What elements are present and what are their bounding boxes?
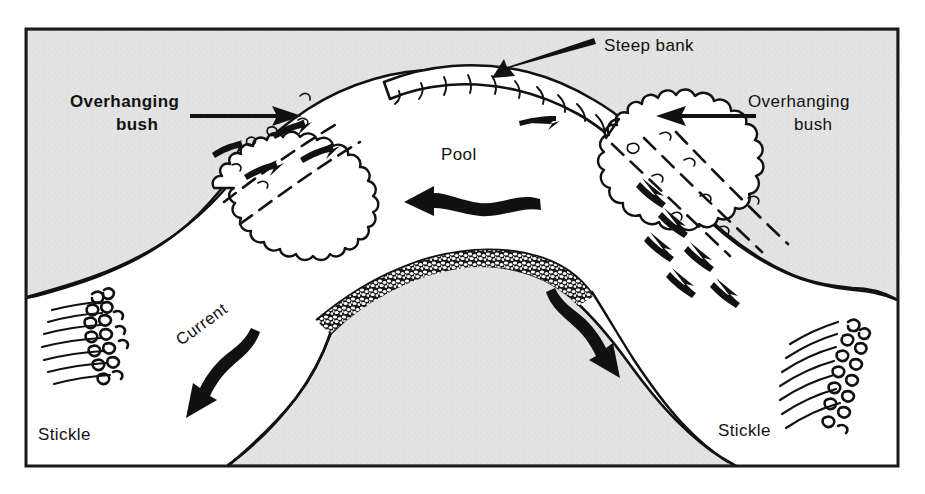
pool-label: Pool bbox=[441, 145, 477, 164]
diagram-canvas: Steep bank Overhanging bush Overhanging … bbox=[26, 29, 898, 466]
stickle-left-label: Stickle bbox=[38, 425, 91, 444]
steep-bank-label: Steep bank bbox=[604, 36, 694, 55]
stickle-right-label: Stickle bbox=[718, 421, 771, 440]
overhanging-bush-right-label-line1: Overhanging bbox=[748, 92, 850, 111]
overhanging-bush-left-label-line2: bush bbox=[116, 115, 158, 134]
river-meander-diagram: Steep bank Overhanging bush Overhanging … bbox=[0, 0, 925, 494]
overhanging-bush-left-label-line1: Overhanging bbox=[70, 92, 179, 111]
overhanging-bush-right-label-line2: bush bbox=[794, 115, 832, 134]
